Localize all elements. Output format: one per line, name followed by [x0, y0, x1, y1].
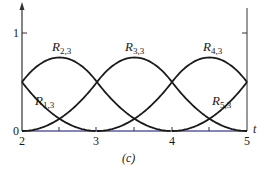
- y-tick-label-1: 1: [13, 27, 19, 39]
- label-r43: R4,3: [203, 40, 222, 56]
- x-tick-label-4: 4: [169, 135, 175, 147]
- x-tick-label-3: 3: [93, 135, 99, 147]
- label-r53: R5,3: [212, 94, 231, 110]
- curve-r5-3: [172, 82, 247, 131]
- x-tick-label-5: 5: [244, 135, 250, 147]
- curve-r1-3: [22, 82, 96, 131]
- label-r13: R1,3: [35, 94, 54, 110]
- x-axis-label-t: t: [253, 123, 256, 135]
- y-axis-arrow-icon: [20, 2, 25, 10]
- label-r23: R2,3: [52, 40, 71, 56]
- label-r33: R3,3: [125, 40, 144, 56]
- plot-area: [0, 0, 267, 172]
- figure-caption: (c): [122, 152, 135, 164]
- x-tick-label-2: 2: [19, 135, 25, 147]
